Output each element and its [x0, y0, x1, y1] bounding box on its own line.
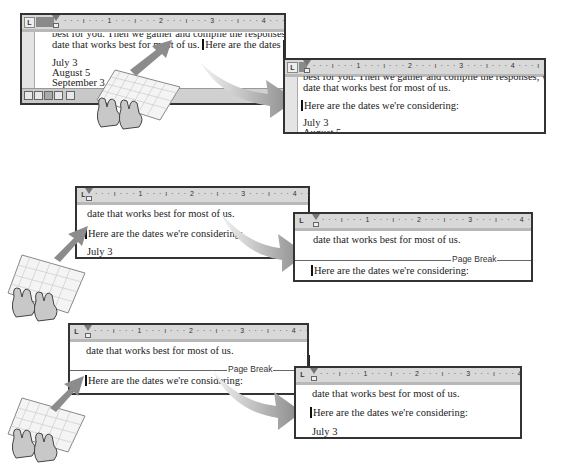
normal-view-icon[interactable]: [24, 91, 33, 100]
arrow-up-right-icon: [48, 372, 88, 412]
step3-after-window: L · · · ı · · · 1 · · · ı · · · 2 · · · …: [294, 366, 522, 439]
ruler-ticks: · · · ı · · · 1 · · · ı · · · 2 · · · ı …: [95, 190, 308, 197]
ruler-ticks: · · · ı · · · 1 · · · ı · · · 2 · · · ı …: [94, 327, 307, 334]
text-line: Here are the dates we're considering:: [301, 100, 459, 111]
horizontal-ruler[interactable]: L · · · ı · · · 1 · · · ı · · · 2 · · · …: [295, 214, 531, 231]
connector-line: [308, 196, 309, 212]
ruler-ticks: · · · ı · · · 1 · · · ı · · · 2 · · · ı …: [64, 17, 284, 24]
step2-after-window: L · · · ı · · · 1 · · · ı · · · 2 · · · …: [293, 212, 533, 282]
indent-marker-icon[interactable]: [312, 214, 320, 228]
scroll-left-icon[interactable]: [66, 91, 75, 100]
indent-marker-icon[interactable]: [85, 188, 93, 202]
text-cursor: [301, 100, 303, 111]
tab-selector-icon[interactable]: L: [287, 62, 298, 73]
text-line: date that works best for most of us.: [303, 82, 451, 93]
ruler-ticks: · · · ı · · · 1 · · · ı · · · 2 · · · ı …: [322, 216, 531, 223]
arrow-up-right-icon: [52, 222, 92, 262]
text-segment: Here are the dates we're considering:: [314, 265, 469, 276]
indent-marker-icon[interactable]: [303, 60, 311, 74]
text-cursor: [202, 39, 204, 50]
horizontal-ruler[interactable]: L · · · ı · · · 1 · · · ı · · · 2 · · · …: [296, 368, 520, 385]
horizontal-ruler[interactable]: L · · · ı · · · 1 · · · ı · · · 2 · · · …: [77, 188, 308, 205]
text-line: Here are the dates we're considering:: [310, 407, 468, 418]
indent-marker-icon[interactable]: [84, 325, 92, 339]
text-line: Here are the dates we're considering:: [311, 265, 469, 276]
print-layout-icon[interactable]: [44, 91, 53, 100]
tab-selector-icon[interactable]: L: [298, 370, 307, 379]
ruler-ticks: · · · ı · · · 1 · · · ı · · · 2 · · · ı …: [313, 62, 544, 69]
horizontal-ruler[interactable]: L · · · ı · · · 1 · · · ı · · · 2 · · · …: [22, 15, 284, 32]
text-line: date that works best for most of us.: [312, 388, 460, 399]
page-break-label: Page Break: [451, 254, 497, 264]
outline-view-icon[interactable]: [54, 91, 63, 100]
text-line: date that works best for most of us.: [87, 208, 235, 219]
text-segment: Here are the dates we're considering:: [205, 39, 286, 50]
horizontal-ruler[interactable]: L · · · ı · · · 1 · · · ı · · · 2 · · · …: [285, 60, 544, 77]
text-line: date that works best for most of us.: [313, 234, 461, 245]
curved-arrow-icon: [210, 368, 305, 433]
vertical-ruler: [22, 32, 35, 89]
arrow-up-right-icon: [128, 36, 178, 76]
horizontal-ruler[interactable]: L · · · ı · · · 1 · · · ı · · · 2 · · · …: [70, 325, 307, 342]
text-line: date that works best for most of us.: [86, 345, 234, 356]
web-view-icon[interactable]: [34, 91, 43, 100]
step1-after-window: L · · · ı · · · 1 · · · ı · · · 2 · · · …: [283, 58, 546, 134]
text-cursor: [311, 265, 313, 276]
tab-selector-icon[interactable]: L: [297, 216, 306, 225]
text-segment: Here are the dates we're considering:: [304, 100, 459, 111]
ruler-ticks: · · · ı · · · 1 · · · ı · · · 2 · · · ı …: [320, 370, 520, 377]
text-cursor: [310, 407, 312, 418]
date-item: July 3: [312, 426, 337, 437]
tab-selector-icon[interactable]: L: [72, 327, 81, 336]
date-item: August 5: [303, 127, 341, 134]
indent-marker-icon[interactable]: [52, 15, 60, 29]
tab-selector-icon[interactable]: L: [24, 17, 35, 28]
indent-marker-icon[interactable]: [310, 368, 318, 382]
text-segment: Here are the dates we're considering:: [313, 407, 468, 418]
vertical-ruler: [285, 77, 298, 132]
